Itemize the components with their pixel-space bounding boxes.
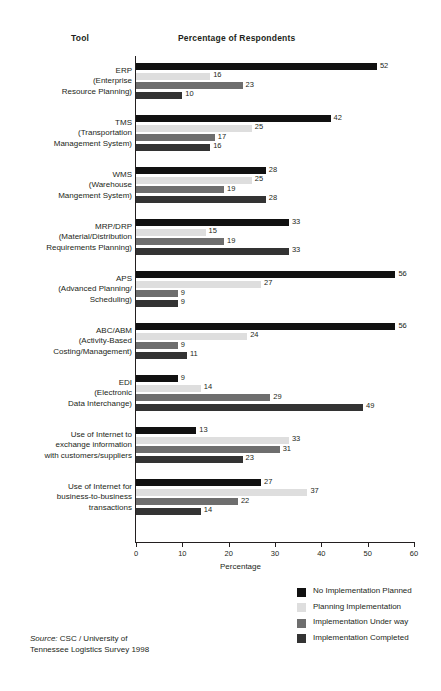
bar-value-label: 23: [246, 81, 254, 89]
legend-item-label: Planning Implementation: [313, 602, 401, 611]
source-text-line2: Tennessee Logistics Survey 1998: [30, 645, 149, 654]
bar-value-label: 27: [264, 478, 272, 486]
bar: [136, 177, 252, 184]
bar-value-label: 56: [398, 270, 406, 278]
bar: [136, 219, 289, 226]
bar: [136, 479, 261, 486]
bar: [136, 437, 289, 444]
bar: [136, 498, 238, 505]
legend-item-label: Implementation Completed: [313, 633, 409, 642]
bar-value-label: 27: [264, 279, 272, 287]
category-label-line: Resource Planning): [0, 87, 132, 98]
category-label-line: Mangement System): [0, 191, 132, 202]
bar: [136, 167, 266, 174]
x-axis-tick-label: 50: [363, 549, 371, 558]
category-label-line: Data Interchange): [0, 399, 132, 410]
category-label: ERP(EnterpriseResource Planning): [0, 66, 132, 98]
source-text: CSC / University of: [58, 634, 128, 643]
category-label-line: (Electronic: [0, 388, 132, 399]
x-axis-title: Percentage: [0, 562, 441, 571]
category-label-line: (Warehouse: [0, 180, 132, 191]
category-label-line: exchange information: [0, 440, 132, 451]
bar: [136, 144, 210, 151]
bar: [136, 342, 178, 349]
bar-value-label: 37: [310, 487, 318, 495]
bar-value-label: 9: [181, 341, 185, 349]
category-label-line: Scheduling): [0, 295, 132, 306]
bar-value-label: 33: [292, 435, 300, 443]
bar: [136, 489, 307, 496]
bar-value-label: 16: [213, 142, 221, 150]
bar: [136, 186, 224, 193]
bar-value-label: 16: [213, 71, 221, 79]
bar-value-label: 15: [209, 227, 217, 235]
source-label: Source:: [30, 634, 58, 643]
bar-value-label: 28: [269, 166, 277, 174]
bar: [136, 82, 243, 89]
category-label-line: (Material/Distribution: [0, 232, 132, 243]
bar: [136, 333, 247, 340]
x-axis-tick-label: 20: [224, 549, 232, 558]
category-label-line: Costing/Management): [0, 347, 132, 358]
category-label: ABC/ABM(Activity-BasedCosting/Management…: [0, 326, 132, 358]
bar-value-label: 29: [273, 393, 281, 401]
bar: [136, 92, 182, 99]
bar-value-label: 17: [218, 133, 226, 141]
x-axis-tick-label: 0: [134, 549, 138, 558]
x-axis-tick-label: 60: [410, 549, 418, 558]
legend-swatch-icon: [297, 619, 306, 628]
bar-value-label: 9: [181, 298, 185, 306]
category-label-line: (Activity-Based: [0, 336, 132, 347]
legend-item-label: No Implementation Planned: [313, 586, 412, 595]
bar: [136, 323, 395, 330]
category-label-line: MRP/DRP: [0, 222, 132, 233]
category-label-line: APS: [0, 274, 132, 285]
bar-value-label: 52: [380, 62, 388, 70]
bar: [136, 385, 201, 392]
legend-item-label: Implementation Under way: [313, 617, 408, 626]
bar-value-label: 23: [246, 454, 254, 462]
x-axis-tick: [321, 542, 322, 547]
bar: [136, 238, 224, 245]
plot-area: 0102030405060 ERP(EnterpriseResource Pla…: [0, 0, 441, 560]
category-label-line: transactions: [0, 503, 132, 514]
bar-group: Use of Internet forbusiness-to-businesst…: [0, 479, 441, 515]
category-label: WMS(WarehouseMangement System): [0, 170, 132, 202]
category-label: Use of Internet toexchange informationwi…: [0, 430, 132, 462]
x-axis-tick: [368, 542, 369, 547]
bar-group: APS(Advanced Planning/Scheduling)562799: [0, 271, 441, 307]
bar-value-label: 10: [185, 90, 193, 98]
x-axis-tick: [275, 542, 276, 547]
category-label-line: Use of Internet for: [0, 482, 132, 493]
bar: [136, 196, 266, 203]
x-axis-title-text: Percentage: [220, 562, 261, 571]
bar-value-label: 28: [269, 194, 277, 202]
category-label-line: TMS: [0, 118, 132, 129]
category-label-line: (Advanced Planning/: [0, 284, 132, 295]
category-label-line: ERP: [0, 66, 132, 77]
bar-value-label: 9: [181, 289, 185, 297]
bar: [136, 508, 201, 515]
category-label-line: EDI: [0, 378, 132, 389]
source-note: Source: CSC / University of Tennessee Lo…: [30, 633, 149, 655]
bar-value-label: 11: [190, 350, 198, 358]
bar: [136, 229, 206, 236]
bar-value-label: 22: [241, 497, 249, 505]
category-label-line: business-to-business: [0, 492, 132, 503]
x-axis-tick: [229, 542, 230, 547]
x-axis-tick: [414, 542, 415, 547]
x-axis-tick-label: 40: [317, 549, 325, 558]
category-label-line: Management System): [0, 139, 132, 150]
bar-group: EDI(ElectronicData Interchange)9142949: [0, 375, 441, 411]
bar-value-label: 19: [227, 237, 235, 245]
bar: [136, 125, 252, 132]
category-label-line: Use of Internet to: [0, 430, 132, 441]
legend-swatch-icon: [297, 588, 306, 597]
bar-value-label: 24: [250, 331, 258, 339]
x-axis-tick-label: 30: [271, 549, 279, 558]
bar: [136, 446, 280, 453]
bar-value-label: 14: [204, 506, 212, 514]
chart-figure: Tool Percentage of Respondents 010203040…: [0, 0, 441, 691]
bar-value-label: 33: [292, 246, 300, 254]
bar-value-label: 25: [255, 175, 263, 183]
